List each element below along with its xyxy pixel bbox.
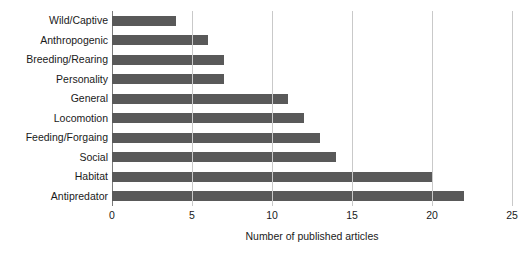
x-axis-tick-label: 20 [412,209,452,221]
y-axis-tick-label: General [0,89,108,109]
gridline [352,11,353,206]
bar [112,74,224,84]
gridline [272,11,273,206]
bar [112,55,224,65]
gridline [432,11,433,206]
bar [112,191,464,201]
bar-row [112,109,512,129]
y-axis-tick-label: Wild/Captive [0,11,108,31]
bar-row [112,50,512,70]
y-axis-tick-label: Antipredator [0,187,108,207]
y-axis-tick-label: Feeding/Forgaing [0,128,108,148]
x-axis-tick-label: 25 [492,209,532,221]
x-axis-tick-label: 10 [252,209,292,221]
x-axis-tick-label: 5 [172,209,212,221]
y-axis-tick-label: Anthropogenic [0,31,108,51]
y-axis-tick-label: Breeding/Rearing [0,50,108,70]
bar [112,113,304,123]
gridline [512,11,513,206]
gridline [192,11,193,206]
bar [112,16,176,26]
bar-row [112,167,512,187]
bar-chart: Wild/CaptiveAnthropogenicBreeding/Rearin… [0,0,532,254]
bar [112,133,320,143]
bar-row [112,89,512,109]
bars-layer [112,11,512,206]
bar [112,94,288,104]
x-axis-title: Number of published articles [112,230,512,242]
bar-row [112,148,512,168]
bar-row [112,70,512,90]
bar [112,152,336,162]
y-axis-tick-label: Habitat [0,167,108,187]
x-axis-tick-label: 15 [332,209,372,221]
bar-row [112,11,512,31]
bar-row [112,128,512,148]
y-axis-category-labels: Wild/CaptiveAnthropogenicBreeding/Rearin… [0,11,108,206]
x-axis-tick-label: 0 [92,209,132,221]
y-axis-tick-label: Social [0,148,108,168]
plot-area [112,11,512,206]
bar-row [112,187,512,207]
bar [112,35,208,45]
y-axis-tick-label: Personality [0,70,108,90]
y-axis-tick-label: Locomotion [0,109,108,129]
bar-row [112,31,512,51]
